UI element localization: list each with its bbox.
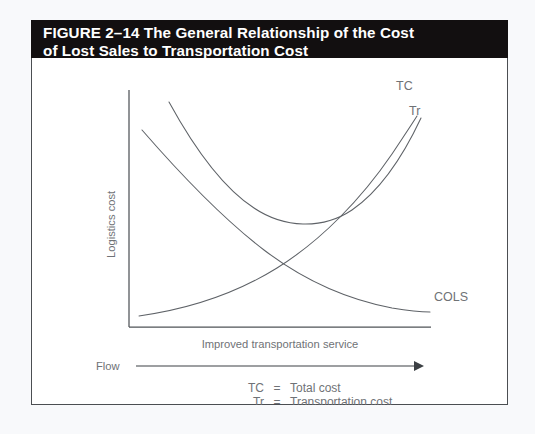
flow-arrow-head-icon [414,361,424,371]
curve-tr [139,116,417,316]
chart-canvas: TC Tr COLS Logistics cost Improved trans… [32,58,509,405]
legend-equals-tr: = [273,395,280,405]
legend-value-tc: Total cost [290,381,341,395]
figure-title-line-1: FIGURE 2–14 The General Relationship of … [43,24,498,42]
flow-label: Flow [96,360,121,372]
legend-key-tc: TC [248,381,264,395]
curve-label-tc: TC [396,79,413,93]
figure-title-banner: FIGURE 2–14 The General Relationship of … [31,20,508,59]
curve-label-tr: Tr [409,104,420,118]
legend-value-tr: Transportation cost [290,395,393,405]
figure-title-line-2: of Lost Sales to Transportation Cost [43,42,498,60]
curve-cols [142,130,430,312]
curve-label-cols: COLS [434,290,468,304]
legend-equals-tc: = [273,381,280,395]
figure-body: TC Tr COLS Logistics cost Improved trans… [31,58,508,405]
legend-key-tr: Tr [253,395,264,405]
x-axis-label: Improved transportation service [202,338,359,350]
figure-card: FIGURE 2–14 The General Relationship of … [31,20,508,405]
curve-tc [169,102,421,224]
y-axis-label: Logistics cost [105,190,117,258]
